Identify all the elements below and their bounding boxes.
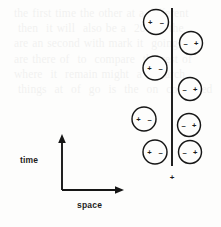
particle-right-charge-glyph: + [193,85,198,94]
particle-right-charge-glyph: + [192,121,197,130]
space-axis-arrowhead [115,186,124,194]
particle-right-4: –+ [179,141,202,164]
particle-right-charge-glyph: – [160,18,164,27]
right-particle-column: –+–+–+–+ [178,32,203,164]
particle-right-charge-glyph: – [158,148,162,157]
particle-left-3: +– [132,107,156,131]
particle-left-charge-glyph: + [147,64,152,73]
time-axis-label: time [20,155,38,165]
left-particle-column: +–+–+–+– [132,10,169,165]
particle-right-charge-glyph: + [193,148,198,157]
particle-left-2: +– [143,56,167,80]
spacetime-figure: the first time the other at a different … [0,0,221,227]
plus-marker-below-line: + [170,173,175,182]
particle-right-charge-glyph: – [158,64,162,73]
time-axis-arrowhead [58,134,66,143]
particle-left-1: +– [144,10,169,35]
particle-right-2: –+ [179,78,202,101]
particle-left-charge-glyph: – [183,85,187,94]
particle-left-4: +– [143,140,167,164]
particle-left-charge-glyph: – [183,148,187,157]
particle-right-charge-glyph: + [194,39,199,48]
axes-group: time space [20,134,124,210]
particle-left-charge-glyph: – [184,39,188,48]
particle-right-3: –+ [178,114,201,137]
space-axis-label: space [77,200,102,210]
particle-left-charge-glyph: + [148,18,153,27]
particle-left-charge-glyph: + [136,115,141,124]
particle-left-charge-glyph: – [182,121,186,130]
diagram-canvas: time space + +–+–+–+– –+–+–+–+ [0,0,221,227]
particle-right-1: –+ [180,32,203,55]
particle-right-charge-glyph: – [147,115,151,124]
particle-left-charge-glyph: + [147,148,152,157]
